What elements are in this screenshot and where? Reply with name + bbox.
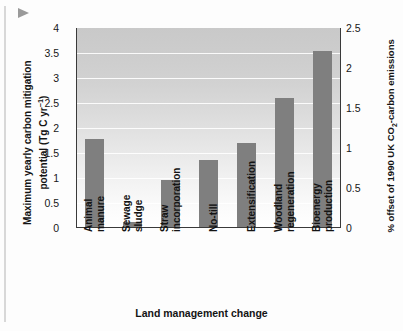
x-category-straw-incorporation: Strawincorporation (159, 142, 182, 232)
y-tick-left-4: 4 (53, 23, 59, 33)
y-tick-right-2: 2 (346, 63, 352, 73)
x-category-line: Bioenergy (311, 142, 323, 232)
x-category-line: manure (95, 142, 107, 232)
x-category-line: Sewage (121, 142, 133, 232)
y-axis-left-title-line1: Maximum yearly carbon mitigation (22, 60, 33, 225)
x-category-line: No-till (208, 142, 220, 232)
x-axis-title: Land management change (0, 307, 403, 319)
x-category-bioenergy-production: Bioenergyproduction (311, 142, 334, 232)
x-category-woodland-regeneration: Woodlandregeneration (273, 142, 296, 232)
x-category-animal-manure: Animalmanure (83, 142, 106, 232)
y-tick-right-2-5: 2.5 (346, 23, 361, 33)
x-category-extensification: Extensification (246, 142, 258, 232)
y-axis-right-title: % offset of 1990 UK CO2-carbon emissions (385, 36, 401, 236)
y-axis-left-title-line2-post: ) (39, 96, 50, 99)
x-category-line: Extensification (246, 142, 258, 232)
bar-chart-figure: 00.511.522.533.54 00.511.522.5 Animalman… (0, 0, 403, 331)
x-category-line: sludge (133, 142, 145, 232)
y-tick-left-1: 1 (53, 173, 59, 183)
y-tick-right-0: 0 (346, 223, 352, 233)
x-category-line: Woodland (273, 142, 285, 232)
y-tick-left-2: 2 (53, 123, 59, 133)
y-axis-left-title: Maximum yearly carbon mitigation potenti… (21, 43, 50, 243)
y-tick-left-3: 3 (53, 73, 59, 83)
y-axis-left-title-line2-pre: potential (Tg C yr (39, 107, 50, 189)
x-category-line: production (322, 142, 334, 232)
x-category-sewage-sludge: Sewagesludge (121, 142, 144, 232)
y-axis-right-title-line2: emissions (385, 39, 396, 85)
y-axis-right-title-line1: % offset of 1990 UK CO2-carbon (385, 88, 396, 232)
y-axis-right-title-line1-post: -carbon (385, 88, 396, 123)
y-axis-right-title-line1-pre: % offset of 1990 UK CO (385, 127, 396, 233)
x-category-line: regeneration (284, 142, 296, 232)
y-axis-right-title-subscript: 2 (391, 123, 398, 127)
y-tick-right-1: 1 (346, 143, 352, 153)
x-category-no-till: No-till (208, 142, 220, 232)
x-category-line: Animal (83, 142, 95, 232)
x-category-line: incorporation (171, 142, 183, 232)
page-canvas: 00.511.522.533.54 00.511.522.5 Animalman… (0, 0, 403, 331)
y-axis-left-title-line2: potential (Tg C yr−1) (39, 96, 50, 190)
y-tick-right-1-5: 1.5 (346, 103, 361, 113)
y-tick-left-0: 0 (53, 223, 59, 233)
y-axis-left-title-exponent: −1 (36, 99, 45, 107)
x-category-line: Straw (159, 142, 171, 232)
y-tick-right-0-5: 0.5 (346, 183, 361, 193)
